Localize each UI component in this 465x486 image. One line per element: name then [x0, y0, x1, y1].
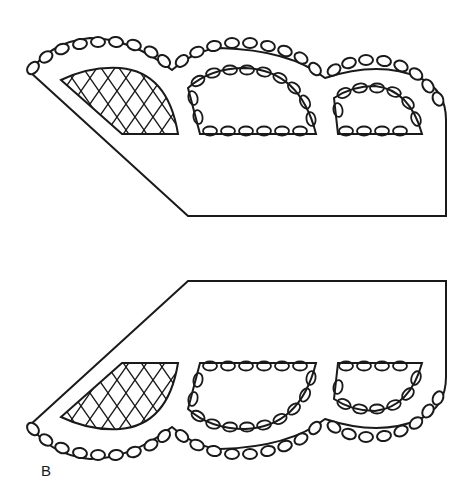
figure-label: B [41, 463, 51, 478]
bottom-piece [25, 281, 446, 461]
lace-pattern-diagram [0, 0, 465, 486]
top-piece [25, 36, 446, 216]
